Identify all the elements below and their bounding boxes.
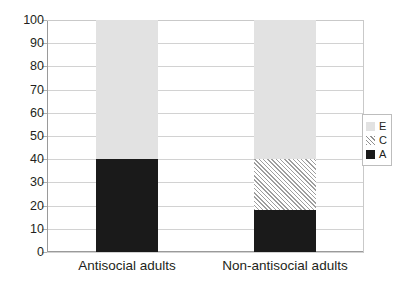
bar-non-antisocial-adults [254, 20, 316, 252]
bar-segment-e [96, 20, 158, 159]
y-tick-label-40: 40 [4, 153, 44, 166]
bar-segment-e [254, 20, 316, 159]
y-tick-label-10: 10 [4, 223, 44, 236]
y-tick-label-80: 80 [4, 60, 44, 73]
light-gray-square-icon [366, 122, 375, 131]
bar-segment-a [96, 159, 158, 252]
gridline-0 [47, 252, 364, 253]
black-square-icon [366, 150, 375, 159]
y-tick-label-0: 0 [4, 246, 44, 259]
legend-item-label: A [379, 149, 386, 160]
y-tick-label-60: 60 [4, 107, 44, 120]
y-tick-label-30: 30 [4, 176, 44, 189]
bar-antisocial-adults [96, 20, 158, 252]
y-tick-label-70: 70 [4, 84, 44, 97]
bar-segment-c [254, 159, 316, 210]
legend-item-e: E [366, 119, 387, 133]
y-axis: 0102030405060708090100 [0, 0, 44, 292]
legend-item-c: C [366, 133, 387, 147]
legend-item-label: E [379, 121, 386, 132]
plot-area [47, 20, 364, 252]
category-label: Non-antisocial adults [185, 258, 385, 273]
y-tick-label-20: 20 [4, 200, 44, 213]
y-tick-label-50: 50 [4, 130, 44, 143]
bar-segment-a [254, 210, 316, 252]
stacked-bar-chart: 0102030405060708090100 Antisocial adults… [0, 0, 412, 292]
legend-item-a: A [366, 147, 387, 161]
y-tick-label-100: 100 [4, 14, 44, 27]
plot-border-top [47, 20, 364, 21]
hatched-square-icon [366, 136, 375, 145]
legend: ECA [362, 114, 392, 166]
legend-item-label: C [379, 135, 387, 146]
y-tick-label-90: 90 [4, 37, 44, 50]
